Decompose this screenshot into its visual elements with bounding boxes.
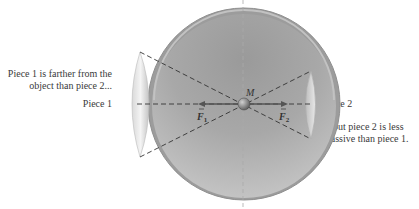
piece1-cap (132, 52, 149, 157)
shell-diagram: M F1 F2 (0, 0, 419, 209)
mass-label: M (245, 87, 255, 98)
mass-object (238, 98, 250, 110)
